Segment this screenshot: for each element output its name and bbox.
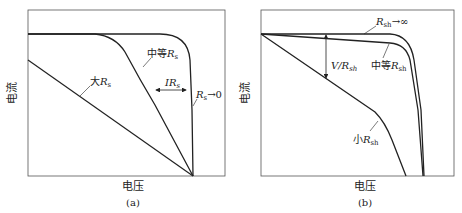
label-medium-rsh: 中等Rsh: [371, 59, 407, 73]
curve-medium-rsh: [261, 34, 423, 176]
ylabel-b: 电流: [238, 82, 252, 104]
label-irs: IRs: [164, 77, 180, 90]
leader-medium-rs: [143, 58, 151, 67]
plot-frame-b: [261, 10, 454, 176]
label-large-rs: 大Rs: [90, 75, 112, 89]
curve-rsh-inf: [261, 34, 424, 176]
panel-b: Rsh→∞ 中等Rsh V/Rsh 小Rsh 电流 电压 (b): [238, 10, 454, 208]
caption-b: (b): [358, 197, 372, 208]
leader-rs-zero: [193, 99, 197, 106]
leader-medium-rsh: [383, 44, 389, 58]
caption-a: (a): [126, 197, 140, 208]
leader-large-rs: [80, 86, 90, 96]
panel-a: 中等Rs IRs Rs→0 大Rs 电流 电压 (a): [5, 10, 225, 208]
ylabel-a: 电流: [5, 82, 19, 104]
leader-rsh-inf: [364, 26, 376, 34]
label-medium-rs: 中等Rs: [147, 47, 179, 61]
xlabel-b: 电压: [354, 180, 376, 193]
leader-small-rsh: [370, 121, 378, 131]
diagram-canvas: 中等Rs IRs Rs→0 大Rs 电流 电压 (a) Rsh→∞ 中等Rsh …: [0, 0, 462, 213]
label-v-rsh: V/Rsh: [331, 60, 357, 73]
label-rsh-inf: Rsh→∞: [375, 16, 408, 29]
label-rs-zero: Rs→0: [195, 89, 222, 102]
label-small-rsh: 小Rsh: [353, 134, 379, 147]
xlabel-a: 电压: [122, 180, 144, 193]
